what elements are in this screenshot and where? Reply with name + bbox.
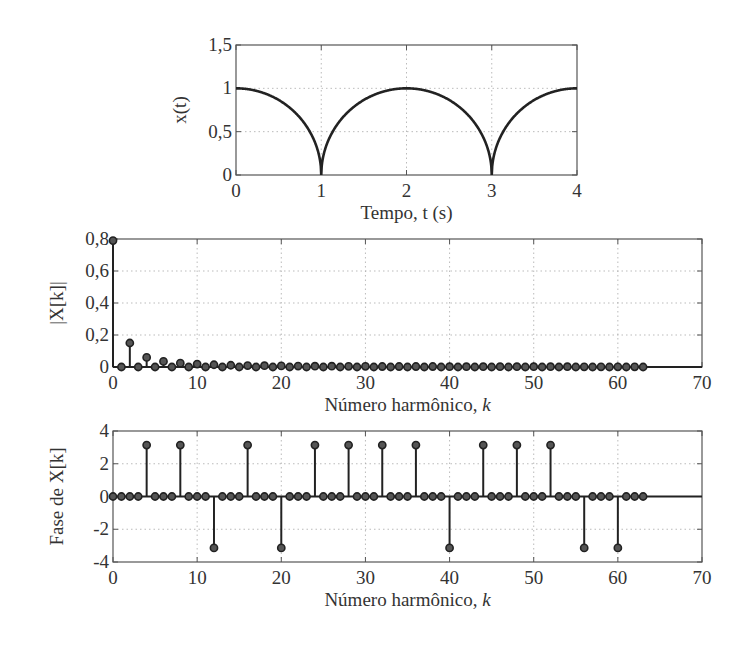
stem-marker: [345, 363, 352, 370]
stem-marker: [261, 362, 268, 369]
stem-marker: [177, 360, 184, 367]
stem-marker: [421, 493, 428, 500]
stem-marker: [530, 493, 537, 500]
x-axis-label: Número harmônico, k: [324, 589, 491, 610]
stem-marker: [564, 493, 571, 500]
stem-marker: [286, 493, 293, 500]
x-tick-label: 10: [188, 567, 207, 588]
stem-marker: [513, 441, 520, 448]
x-tick-label: 60: [608, 372, 627, 393]
stem-marker: [488, 493, 495, 500]
x-tick-label: 4: [572, 180, 582, 201]
stem-marker: [631, 493, 638, 500]
stem-marker: [202, 493, 209, 500]
x-tick-label: 50: [524, 372, 543, 393]
stem-marker: [269, 493, 276, 500]
stem-marker: [286, 363, 293, 370]
stem-marker: [177, 441, 184, 448]
stem-marker: [337, 493, 344, 500]
stem-marker: [143, 441, 150, 448]
stem-marker: [387, 363, 394, 370]
stem-marker: [362, 363, 369, 370]
stem-marker: [126, 339, 133, 346]
x-tick-label: 20: [272, 372, 291, 393]
stem-marker: [135, 493, 142, 500]
stem-marker: [126, 493, 133, 500]
stem-marker: [555, 363, 562, 370]
stem-marker: [572, 493, 579, 500]
x-tick-label: 0: [231, 180, 241, 201]
stem-marker: [581, 544, 588, 551]
y-tick-label: -2: [93, 518, 109, 539]
stem-marker: [446, 544, 453, 551]
stem-marker: [505, 493, 512, 500]
y-tick-label: 0,6: [85, 260, 109, 281]
stem-marker: [606, 493, 613, 500]
stem-marker: [151, 363, 158, 370]
stem-marker: [135, 363, 142, 370]
x-tick-label: 40: [440, 372, 459, 393]
stem-marker: [463, 493, 470, 500]
stem-marker: [194, 361, 201, 368]
stem-marker: [496, 363, 503, 370]
stem-marker: [210, 544, 217, 551]
stem-marker: [555, 493, 562, 500]
x-axis-label: Tempo, t (s): [360, 202, 452, 224]
stem-marker: [614, 544, 621, 551]
stem-marker: [244, 441, 251, 448]
stem-marker: [252, 363, 259, 370]
x-tick-label: 50: [524, 567, 543, 588]
stem-marker: [379, 363, 386, 370]
stem-marker: [404, 363, 411, 370]
x-tick-label: 20: [272, 567, 291, 588]
stem-marker: [118, 363, 125, 370]
stem-marker: [547, 441, 554, 448]
stem-marker: [395, 363, 402, 370]
y-axis-label: Fase de X[k]: [46, 447, 67, 545]
x-axis-label: Número harmônico, k: [324, 394, 491, 415]
stem-marker: [168, 363, 175, 370]
y-tick-label: 0,2: [85, 324, 109, 345]
stem-marker: [412, 441, 419, 448]
stem-marker: [623, 493, 630, 500]
y-axis-label: x(t): [169, 96, 191, 123]
stem-marker: [547, 363, 554, 370]
y-axis-label: |X[k]|: [46, 281, 67, 324]
stem-marker: [530, 363, 537, 370]
stem-marker: [244, 362, 251, 369]
stem-marker: [614, 363, 621, 370]
stem-marker: [269, 363, 276, 370]
stem-marker: [496, 493, 503, 500]
phase-spectrum-plot: 010203040506070-4-2024Número harmônico, …: [46, 420, 712, 610]
stem-marker: [421, 363, 428, 370]
stem-marker: [488, 363, 495, 370]
stem-marker: [303, 363, 310, 370]
stem-marker: [522, 493, 529, 500]
stem-marker: [227, 362, 234, 369]
x-tick-label: 30: [356, 567, 375, 588]
stem-marker: [210, 361, 217, 368]
stem-marker: [597, 493, 604, 500]
stem-marker: [429, 363, 436, 370]
figure: 0123400,511,5Tempo, t (s)x(t) 0102030405…: [0, 0, 749, 649]
stem-marker: [438, 493, 445, 500]
stem-marker: [505, 363, 512, 370]
stem-marker: [631, 363, 638, 370]
x-tick-label: 70: [693, 372, 712, 393]
stem-marker: [438, 363, 445, 370]
y-tick-label: 0,4: [85, 292, 109, 313]
x-tick-label: 60: [608, 567, 627, 588]
stem-marker: [303, 493, 310, 500]
stem-marker: [311, 363, 318, 370]
stem-marker: [480, 363, 487, 370]
stem-marker: [345, 441, 352, 448]
x-tick-label: 70: [693, 567, 712, 588]
stem-marker: [429, 493, 436, 500]
stem-marker: [640, 363, 647, 370]
stem-marker: [236, 363, 243, 370]
stem-marker: [640, 493, 647, 500]
stem-marker: [597, 363, 604, 370]
stem-marker: [379, 441, 386, 448]
x-tick-label: 40: [440, 567, 459, 588]
stem-marker: [353, 363, 360, 370]
